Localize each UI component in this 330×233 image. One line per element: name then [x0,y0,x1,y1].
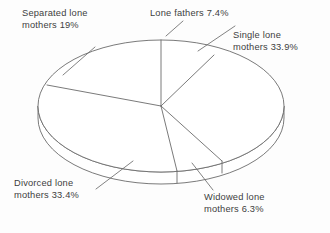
pie-chart: Separated lone mothers 19% Lone fathers … [0,0,330,233]
slice-label-separated-lone-mothers: Separated lone mothers 19% [22,8,124,31]
slice-label-single-lone-mothers: Single lone mothers 33.9% [233,30,328,53]
slice-label-widowed-lone-mothers: Widowed lone mothers 6.3% [204,192,309,215]
slice-label-lone-fathers: Lone fathers 7.4% [150,8,260,20]
leader-line-lone-fathers [166,21,183,36]
slice-label-divorced-lone-mothers: Divorced lone mothers 33.4% [14,178,119,201]
